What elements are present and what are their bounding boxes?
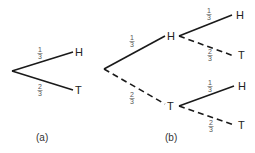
fraction-numerator: 1: [130, 34, 134, 41]
prob-a-heads: 1 3: [38, 46, 43, 60]
branch-a-tails: [12, 71, 73, 90]
branch-bt-heads: [179, 86, 234, 106]
fraction-denominator: 3: [130, 98, 134, 105]
probability-tree-diagram: H T 1 3 2 3 (a) H T 1 3 2 3: [0, 0, 255, 153]
tree-b: H T 1 3 2 3 H T 1 3 2 3 H T: [104, 7, 246, 143]
prob-bt-tails: 2 3: [209, 119, 214, 133]
prob-b-tails: 2 3: [130, 91, 135, 105]
prob-bh-heads: 1 3: [207, 7, 212, 21]
fraction-numerator: 1: [208, 79, 212, 86]
leaf-ht: T: [238, 49, 245, 61]
fraction-numerator: 1: [38, 46, 42, 53]
prob-bh-tails: 2 3: [208, 48, 213, 62]
leaf-hh: H: [236, 9, 244, 21]
node-a-tails: T: [75, 84, 82, 96]
fraction-denominator: 3: [38, 53, 42, 60]
node-b-tails: T: [167, 100, 174, 112]
fraction-denominator: 3: [208, 86, 212, 93]
fraction-numerator: 2: [209, 119, 213, 126]
branch-bh-heads: [179, 15, 232, 36]
branch-b-heads: [104, 36, 165, 69]
prob-b-heads: 1 3: [130, 34, 135, 48]
fraction-denominator: 3: [208, 55, 212, 62]
prob-a-tails: 2 3: [38, 83, 43, 97]
leaf-tt: T: [238, 119, 245, 131]
fraction-numerator: 2: [208, 48, 212, 55]
fraction-denominator: 3: [130, 41, 134, 48]
tree-a: H T 1 3 2 3 (a): [12, 46, 83, 143]
leaf-th: H: [238, 80, 246, 92]
fraction-denominator: 3: [209, 126, 213, 133]
caption-b: (b): [165, 132, 177, 143]
branch-bt-tails: [179, 106, 234, 125]
fraction-numerator: 2: [38, 83, 42, 90]
fraction-numerator: 1: [207, 7, 211, 14]
node-b-heads: H: [167, 30, 175, 42]
branch-a-heads: [12, 52, 73, 71]
fraction-numerator: 2: [130, 91, 134, 98]
fraction-denominator: 3: [38, 90, 42, 97]
caption-a: (a): [36, 132, 48, 143]
branch-bh-tails: [179, 36, 234, 56]
node-a-heads: H: [75, 46, 83, 58]
prob-bt-heads: 1 3: [208, 79, 213, 93]
fraction-denominator: 3: [207, 14, 211, 21]
